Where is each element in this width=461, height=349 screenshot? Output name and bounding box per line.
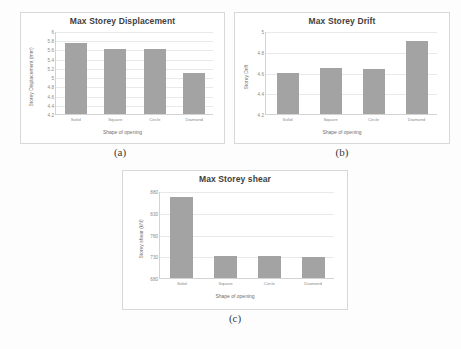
- y-axis-tick-label: 4.6: [258, 71, 264, 76]
- x-axis-tick-label: Solid: [177, 281, 187, 286]
- panel-caption-c: (c): [205, 312, 265, 324]
- panel-caption-b: (b): [312, 146, 372, 158]
- x-axis-tick-label: Diamond: [408, 117, 426, 122]
- x-axis-tick-label: Solid: [71, 117, 81, 122]
- y-axis-tick-label: 5.2: [48, 66, 54, 71]
- bar: [258, 256, 281, 278]
- x-axis-label-c: Shape of opening: [122, 293, 348, 299]
- y-axis-tick-label: 730: [150, 255, 158, 260]
- x-axis-tick-label: Square: [108, 117, 122, 122]
- bar: [277, 73, 299, 115]
- y-axis-tick-label: 4.6: [48, 94, 54, 99]
- y-axis-tick-label: 4.2: [258, 113, 264, 118]
- figure-page: Max Storey Displacement Storey Displacem…: [0, 0, 461, 349]
- gridline: [266, 32, 437, 33]
- chart-panel-c: Max Storey shear Storey shear (kN) 68073…: [122, 170, 348, 310]
- bar: [214, 256, 237, 278]
- y-axis-tick-label: 680: [150, 277, 158, 282]
- y-axis-tick-label: 5.6: [48, 48, 54, 53]
- chart-title-a: Max Storey Displacement: [20, 16, 225, 26]
- chart-panel-a: Max Storey Displacement Storey Displacem…: [20, 12, 225, 144]
- y-axis-tick-label: 5: [51, 76, 54, 81]
- y-axis-tick-label: 4.4: [48, 103, 54, 108]
- y-axis-tick-label: 4.2: [48, 113, 54, 118]
- bar: [104, 49, 126, 114]
- y-axis-label-a: Storey Displacement (mm): [28, 40, 34, 114]
- x-axis-tick-label: Square: [323, 117, 337, 122]
- gridline: [160, 192, 334, 193]
- bar: [183, 73, 205, 115]
- x-axis-tick-label: Circle: [149, 117, 160, 122]
- bar: [170, 197, 193, 278]
- x-axis-tick-label: Diamond: [304, 281, 322, 286]
- y-axis-tick-label: 880: [150, 190, 158, 195]
- plot-area-b: 4.24.44.64.85SolidSquareCircleDiamond: [265, 32, 437, 115]
- plot-area-c: 680730780830880SolidSquareCircleDiamond: [159, 192, 334, 279]
- y-axis-tick-label: 4.8: [48, 85, 54, 90]
- x-axis-tick-label: Square: [219, 281, 233, 286]
- bar: [406, 41, 428, 114]
- panel-caption-a: (a): [90, 146, 150, 158]
- y-axis-tick-label: 5.4: [48, 57, 54, 62]
- bar: [144, 49, 166, 114]
- chart-title-c: Max Storey shear: [122, 174, 348, 184]
- x-axis-label-a: Shape of opening: [20, 129, 225, 135]
- x-axis-tick-label: Circle: [368, 117, 379, 122]
- y-axis-tick-label: 830: [150, 211, 158, 216]
- y-axis-tick-label: 5.8: [48, 39, 54, 44]
- y-axis-label-c: Storey shear (kN): [138, 206, 144, 272]
- x-axis-label-b: Shape of opening: [234, 129, 450, 135]
- y-axis-tick-label: 6: [51, 30, 54, 35]
- plot-area-a: 4.24.44.64.855.25.45.65.86SolidSquareCir…: [55, 32, 213, 115]
- bar: [363, 69, 385, 114]
- y-axis-tick-label: 4.8: [258, 50, 264, 55]
- gridline: [56, 32, 213, 33]
- y-axis-tick-label: 4.4: [258, 92, 264, 97]
- y-axis-label-b: Storey Drift: [243, 49, 249, 105]
- chart-title-b: Max Storey Drift: [234, 16, 450, 26]
- x-axis-tick-label: Diamond: [185, 117, 203, 122]
- bar: [320, 68, 342, 114]
- y-axis-tick-label: 5: [261, 30, 264, 35]
- bar: [302, 257, 325, 278]
- y-axis-tick-label: 780: [150, 233, 158, 238]
- chart-panel-b: Max Storey Drift Storey Drift 4.24.44.64…: [234, 12, 450, 144]
- x-axis-tick-label: Circle: [264, 281, 275, 286]
- bar: [65, 43, 87, 114]
- x-axis-tick-label: Solid: [283, 117, 293, 122]
